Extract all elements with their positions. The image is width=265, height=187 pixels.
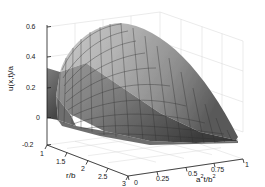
- y-tick-0: 0: [134, 179, 138, 186]
- x-tick-0: 1: [40, 150, 44, 157]
- x-tick-2: 2: [81, 165, 85, 172]
- surface-plot: [0, 0, 265, 187]
- z-tick-4: -0.2: [22, 141, 33, 148]
- x-axis-label: r/b: [66, 172, 75, 180]
- z-tick-2: 0.2: [26, 84, 35, 91]
- x-tick-3: 2.5: [98, 173, 107, 180]
- y-tick-4: 1: [245, 161, 249, 168]
- z-tick-0: 0.6: [26, 23, 35, 30]
- y-axis-label: a2t/b2: [196, 174, 215, 184]
- y-tick-3: 0.75: [211, 166, 224, 173]
- z-tick-3: 0: [36, 114, 40, 121]
- x-tick-4: 3: [122, 180, 126, 187]
- figure-canvas: 0.6 0.4 0.2 0 -0.2 u(x,t)/a 1 1.5 2 2.5 …: [0, 0, 265, 187]
- y-axis-ticks: [128, 159, 244, 180]
- z-tick-1: 0.4: [26, 53, 35, 60]
- x-tick-1: 1.5: [56, 158, 65, 165]
- z-axis-label: u(x,t)/a: [6, 56, 15, 102]
- y-tick-1: 0.25: [156, 175, 169, 182]
- y-axis-label-sup2: 2: [212, 173, 215, 179]
